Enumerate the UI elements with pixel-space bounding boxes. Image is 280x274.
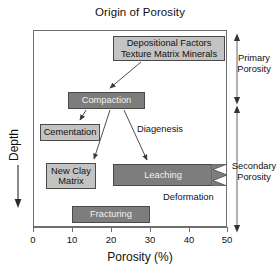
box-depositional-line2: Texture Matrix Minerals: [121, 49, 217, 59]
box-compaction[interactable]: Compaction: [68, 92, 145, 109]
label-diagenesis: Diagenesis: [137, 124, 183, 134]
secondary-porosity-line2: Porosity: [237, 172, 271, 182]
box-leaching-label: Leaching: [144, 170, 182, 180]
box-new-clay-matrix[interactable]: New Clay Matrix: [46, 163, 96, 189]
box-new-clay-line1: New Clay: [51, 166, 91, 176]
x-tick-label-0: 0: [21, 234, 45, 245]
box-cementation-label: Cementation: [44, 127, 97, 137]
box-depositional-factors[interactable]: Depositional Factors Texture Matrix Mine…: [113, 36, 225, 61]
secondary-porosity-line1: Secondary: [232, 161, 276, 171]
x-tick-label-40: 40: [177, 234, 201, 245]
box-new-clay-line2: Matrix: [58, 176, 83, 186]
page-title: Origin of Porosity: [0, 6, 280, 18]
box-leaching[interactable]: Leaching: [113, 164, 213, 186]
label-deformation: Deformation: [163, 192, 214, 202]
box-compaction-label: Compaction: [82, 95, 132, 105]
y-axis-label: Depth: [7, 119, 21, 171]
leaching-zigzag-edge-icon: [211, 164, 227, 186]
x-tick-50: [227, 227, 228, 232]
x-axis-label: Porosity (%): [0, 250, 280, 264]
box-cementation[interactable]: Cementation: [40, 124, 100, 141]
primary-porosity-line2: Porosity: [237, 64, 271, 74]
label-secondary-porosity: Secondary Porosity: [228, 161, 280, 183]
x-tick-label-20: 20: [99, 234, 123, 245]
x-tick-20: [111, 227, 112, 232]
x-tick-30: [150, 227, 151, 232]
x-tick-label-10: 10: [60, 234, 84, 245]
x-tick-label-30: 30: [138, 234, 162, 245]
label-primary-porosity: Primary Porosity: [228, 53, 280, 75]
box-fracturing[interactable]: Fracturing: [72, 206, 150, 223]
x-tick-0: [33, 227, 34, 232]
x-axis-line: [33, 227, 228, 228]
x-tick-label-50: 50: [215, 234, 239, 245]
depth-down-arrow-icon: [14, 165, 22, 209]
porosity-diagram: Origin of Porosity Depositional Factors …: [0, 0, 280, 274]
x-tick-10: [72, 227, 73, 232]
box-fracturing-label: Fracturing: [90, 209, 132, 219]
primary-porosity-line1: Primary: [238, 53, 270, 63]
x-tick-40: [189, 227, 190, 232]
box-depositional-line1: Depositional Factors: [127, 38, 212, 48]
